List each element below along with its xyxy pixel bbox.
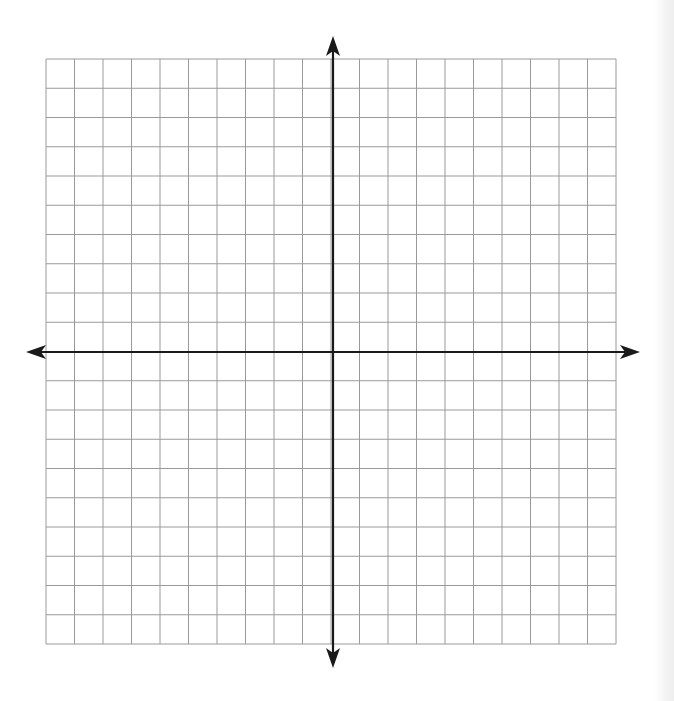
axes xyxy=(26,36,640,668)
coordinate-plane xyxy=(0,0,674,701)
graph-paper xyxy=(0,0,674,701)
